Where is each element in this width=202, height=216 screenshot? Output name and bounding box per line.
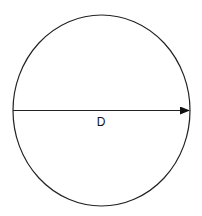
diameter-label: D — [97, 115, 106, 129]
circle-diagram: D — [0, 0, 202, 216]
